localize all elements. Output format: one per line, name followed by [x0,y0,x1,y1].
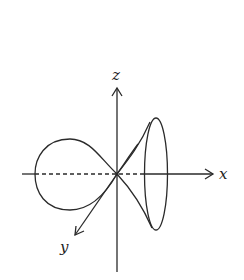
z-axis-label: z [111,66,120,84]
cone-upper-inner-curve [117,144,138,174]
diagram-canvas: z x y [0,0,244,280]
cone-lower-curve [117,174,152,228]
x-axis-label: x [219,165,228,183]
y-axis-label: y [59,238,69,256]
left-lobe-curve [35,139,117,210]
origin-point [115,172,118,175]
